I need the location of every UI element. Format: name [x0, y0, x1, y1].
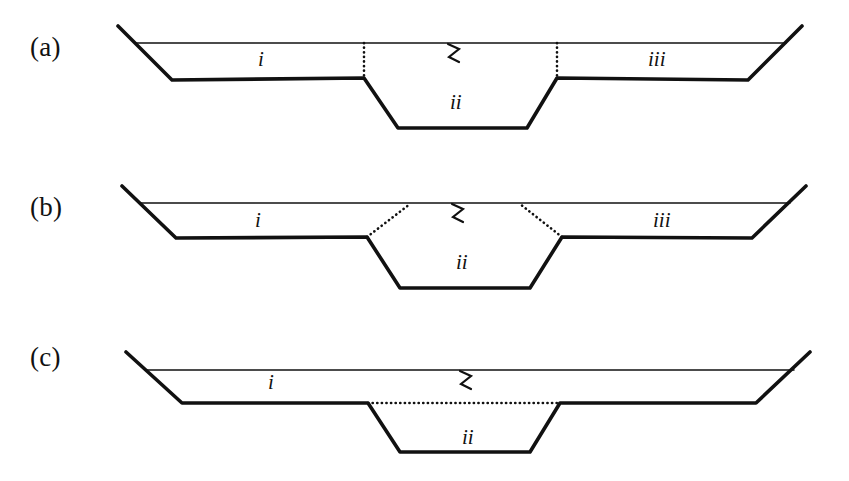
zigzag-break-symbol-b: [452, 204, 463, 222]
panel-a-region-iii-label: iii: [648, 47, 666, 72]
panel-a-dotted-contacts: [364, 43, 557, 78]
panel-c-region-i-label: i: [268, 370, 274, 395]
panel-label-c: (c): [30, 342, 61, 373]
panel-b-region-iii-label: iii: [653, 208, 671, 233]
zigzag-break-symbol-a: [448, 44, 459, 62]
panel-b-region-i-label: i: [255, 208, 261, 233]
dotted-contact-1: [367, 204, 410, 237]
panel-b-region-ii-label: ii: [456, 250, 468, 275]
zigzag-break-symbol-c: [460, 371, 471, 389]
panel-c-region-ii-label: ii: [462, 425, 474, 450]
panel-a-region-i-label: i: [258, 47, 264, 72]
panel-label-b: (b): [30, 192, 62, 223]
panel-a-region-ii-label: ii: [450, 90, 462, 115]
figure-root: (a) (b) (c) i ii iii i ii iii i ii: [0, 0, 849, 481]
diagram-canvas: [0, 0, 849, 481]
dotted-contact-2: [520, 204, 562, 237]
panel-label-a: (a): [30, 32, 61, 63]
